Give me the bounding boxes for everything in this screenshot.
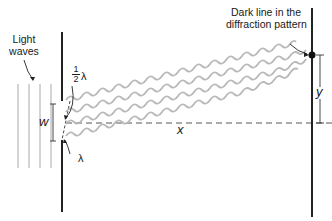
diffraction-diagram (0, 0, 332, 221)
dark-line-label-line1: Dark line in the (226, 6, 306, 18)
half-denominator: 2 (72, 75, 80, 84)
dark-line-label: Dark line in the diffraction pattern (226, 6, 306, 30)
light-waves-label-line1: Light (4, 33, 44, 45)
diffracted-rays (66, 41, 306, 136)
dark-line-label-line2: diffraction pattern (226, 18, 306, 30)
light-waves-label-line2: waves (4, 45, 44, 57)
half-lambda-symbol: λ (81, 70, 87, 82)
light-waves-label: Light waves (4, 33, 44, 57)
x-label: x (177, 124, 184, 136)
half-lambda-fraction: 1 2 (72, 65, 80, 84)
dark-line-dot (309, 52, 316, 59)
y-label: y (316, 86, 323, 98)
w-label: w (39, 116, 48, 128)
lambda-label: λ (78, 152, 84, 164)
